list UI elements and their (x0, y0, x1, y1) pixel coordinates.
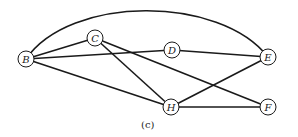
node-H: H (163, 99, 179, 115)
edge-H-E (171, 57, 268, 107)
edge-B-H (26, 59, 171, 107)
node-E: E (260, 49, 276, 65)
node-label-B: B (21, 54, 29, 65)
node-label-D: D (167, 45, 176, 56)
node-label-F: F (264, 102, 273, 113)
node-D: D (164, 42, 180, 58)
node-B: B (18, 51, 34, 67)
node-label-H: H (166, 102, 176, 113)
node-C: C (87, 30, 103, 46)
edge-C-H (95, 38, 171, 107)
edge-D-E (172, 50, 268, 57)
node-label-E: E (263, 52, 272, 63)
node-F: F (260, 99, 276, 115)
node-label-C: C (91, 33, 99, 44)
edge-C-F (95, 38, 268, 107)
edges (26, 11, 268, 107)
figure-caption: (c) (141, 119, 154, 130)
edge-B-D (26, 50, 172, 59)
graph-diagram: B C D E H F (0, 0, 298, 137)
